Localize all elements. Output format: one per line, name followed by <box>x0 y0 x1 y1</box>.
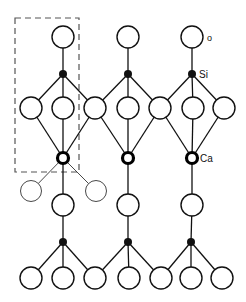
oxygen-atom <box>52 26 74 48</box>
top-oxygen-atoms <box>52 26 203 48</box>
label-calcium: Ca <box>200 153 213 164</box>
oxygen-atom <box>117 194 139 216</box>
silicon-atom <box>124 70 132 78</box>
oxygen-atom <box>150 267 172 289</box>
label-silicon: Si <box>199 69 208 80</box>
oxygen-atom <box>117 97 139 119</box>
oxygen-atom <box>52 97 74 119</box>
oxygen-atom <box>213 97 235 119</box>
upper-oxygen-row <box>20 97 235 119</box>
calcium-atom <box>58 153 69 164</box>
oxygen-atom-thin <box>86 181 107 202</box>
oxygen-atom <box>84 267 106 289</box>
silicon-atom <box>124 238 132 246</box>
oxygen-atom <box>182 97 204 119</box>
oxygen-atom <box>180 267 202 289</box>
oxygen-atom <box>20 97 42 119</box>
calcium-atom <box>123 153 134 164</box>
bottom-oxygen-row <box>20 267 233 289</box>
calcium-atom <box>187 153 198 164</box>
silicon-atom <box>187 238 195 246</box>
oxygen-atom <box>149 97 171 119</box>
lower-silicon-atoms <box>59 238 195 246</box>
oxygen-atom <box>84 97 106 119</box>
silicon-atom <box>59 70 67 78</box>
oxygen-atom <box>118 267 140 289</box>
oxygen-atom <box>52 194 74 216</box>
silicon-atom <box>59 238 67 246</box>
oxygen-atom <box>211 267 233 289</box>
oxygen-atom <box>181 26 203 48</box>
oxygen-atom <box>117 26 139 48</box>
oxygen-atom <box>181 194 203 216</box>
silicon-atom <box>188 70 196 78</box>
oxygen-atom-thin <box>21 181 42 202</box>
label-oxygen: O <box>207 33 212 43</box>
oxygen-atom <box>20 267 42 289</box>
calcium-silicate-structure-diagram: O Si Ca <box>0 0 246 302</box>
oxygen-atom <box>52 267 74 289</box>
middle-oxygen-atoms <box>52 194 203 216</box>
